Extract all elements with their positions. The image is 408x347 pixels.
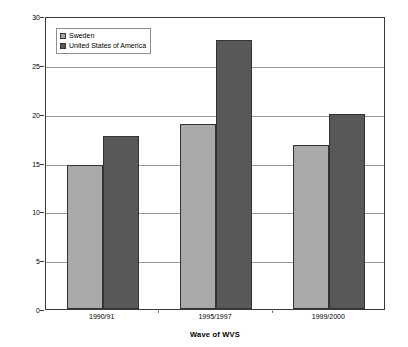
bar [293,145,329,309]
bar [67,165,103,309]
y-tick-mark [40,66,44,67]
bars-layer [46,18,384,309]
x-tick-label: 1990/91 [89,313,114,320]
bar [180,124,216,309]
legend-item[interactable]: Sweden [60,31,146,41]
y-tick-label: 20 [14,111,40,118]
x-tick-label: 1995/1997 [198,313,231,320]
x-tick-mark [158,309,159,313]
y-axis-ticks: 051015202530 [0,17,40,310]
x-tick-mark [272,309,273,313]
y-tick-mark [40,310,44,311]
y-tick-label: 0 [14,307,40,314]
legend-swatch-icon [60,33,66,39]
x-tick-label: 1999/2000 [312,313,345,320]
plot-area: Sweden United States of America [45,17,385,310]
y-tick-mark [40,17,44,18]
y-tick-mark [40,115,44,116]
y-tick-mark [40,212,44,213]
legend-label: United States of America [69,42,146,50]
y-tick-label: 10 [14,209,40,216]
bar-chart: Percent 051015202530 Sweden United State… [0,0,408,347]
bar [103,136,139,309]
y-tick-mark [40,164,44,165]
y-tick-mark [40,261,44,262]
y-tick-label: 30 [14,14,40,21]
y-tick-label: 15 [14,160,40,167]
bar [216,40,252,309]
legend: Sweden United States of America [56,28,151,54]
legend-label: Sweden [69,32,94,40]
x-axis-ticks: 1990/911995/19971999/2000 [45,313,385,327]
y-tick-label: 5 [14,258,40,265]
legend-item[interactable]: United States of America [60,41,146,51]
bar [329,114,365,309]
legend-swatch-icon [60,43,66,49]
x-axis-title: Wave of WVS [45,330,385,339]
y-tick-label: 25 [14,62,40,69]
